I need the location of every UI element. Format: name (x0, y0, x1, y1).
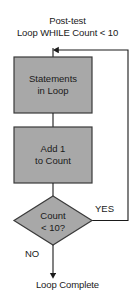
branch-label-yes: YES (95, 203, 114, 214)
diagram-title-line2: Loop WHILE Count < 10 (0, 27, 135, 39)
flowchart-diagram: Post-test Loop WHILE Count < 10 Statemen… (0, 0, 135, 299)
terminal-label: Loop Complete (0, 279, 135, 291)
flowchart-graphics (0, 0, 135, 299)
decision-diamond-condition (14, 196, 92, 245)
diagram-title-line1: Post-test (0, 15, 135, 27)
process-box-statements (14, 57, 92, 113)
diagram-title: Post-test Loop WHILE Count < 10 (0, 15, 135, 38)
process-box-increment (14, 127, 92, 183)
branch-label-no: NO (25, 248, 39, 259)
